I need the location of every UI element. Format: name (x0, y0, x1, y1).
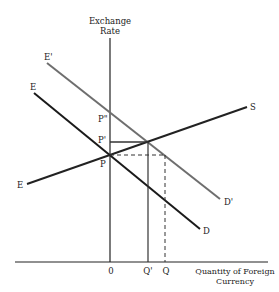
demand-curve (34, 93, 200, 229)
y-axis-label-line2: Rate (100, 26, 120, 36)
p-label: P (100, 159, 106, 169)
demand-end-label: D (203, 226, 210, 236)
q-label: Q (163, 266, 170, 276)
q-prime-label: Q' (143, 266, 152, 276)
supply-end-label: S (250, 102, 256, 112)
supply-start-label: E (17, 180, 23, 190)
demand-start-label: E (30, 82, 36, 92)
x-axis-label-line2: Currency (216, 277, 254, 286)
demand-curve-shifted (47, 63, 220, 199)
x-axis-label-line1: Quantity of Foreign (195, 267, 274, 276)
y-axis-label-line1: Exchange (89, 16, 131, 26)
p-prime-label: P' (98, 135, 106, 145)
demand-shifted-start-label: E' (44, 52, 53, 62)
demand-shifted-end-label: D' (224, 197, 233, 207)
supply-curve (27, 107, 247, 184)
origin-label: 0 (108, 266, 113, 276)
p-double-prime-label: P" (98, 114, 108, 124)
exchange-rate-diagram: Exchange Rate 0 Quantity of Foreign Curr… (0, 0, 279, 292)
